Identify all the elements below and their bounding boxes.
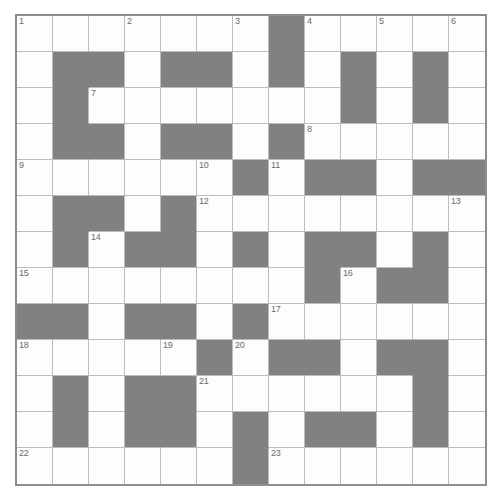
crossword-open-cell[interactable] [89, 268, 125, 304]
crossword-open-cell[interactable] [269, 268, 305, 304]
crossword-open-cell[interactable] [305, 448, 341, 484]
crossword-open-cell[interactable]: 1 [17, 16, 53, 52]
crossword-open-cell[interactable] [449, 304, 485, 340]
crossword-open-cell[interactable] [377, 52, 413, 88]
crossword-open-cell[interactable]: 6 [449, 16, 485, 52]
crossword-open-cell[interactable]: 17 [269, 304, 305, 340]
crossword-open-cell[interactable]: 12 [197, 196, 233, 232]
crossword-open-cell[interactable] [53, 268, 89, 304]
crossword-grid[interactable]: 1234567891011121314151617181920212223 [15, 14, 487, 486]
crossword-open-cell[interactable] [53, 16, 89, 52]
crossword-open-cell[interactable] [197, 304, 233, 340]
crossword-open-cell[interactable]: 20 [233, 340, 269, 376]
crossword-open-cell[interactable] [305, 304, 341, 340]
crossword-open-cell[interactable] [449, 124, 485, 160]
crossword-open-cell[interactable]: 23 [269, 448, 305, 484]
crossword-open-cell[interactable] [233, 52, 269, 88]
crossword-open-cell[interactable]: 13 [449, 196, 485, 232]
crossword-open-cell[interactable] [197, 16, 233, 52]
crossword-open-cell[interactable] [413, 304, 449, 340]
crossword-open-cell[interactable] [377, 412, 413, 448]
crossword-open-cell[interactable] [341, 304, 377, 340]
crossword-open-cell[interactable] [377, 448, 413, 484]
crossword-open-cell[interactable] [89, 160, 125, 196]
crossword-open-cell[interactable] [125, 196, 161, 232]
crossword-open-cell[interactable] [449, 268, 485, 304]
crossword-open-cell[interactable] [341, 16, 377, 52]
crossword-open-cell[interactable] [53, 160, 89, 196]
crossword-open-cell[interactable]: 15 [17, 268, 53, 304]
crossword-open-cell[interactable] [161, 448, 197, 484]
crossword-open-cell[interactable] [17, 88, 53, 124]
crossword-open-cell[interactable] [89, 340, 125, 376]
crossword-open-cell[interactable] [197, 88, 233, 124]
crossword-open-cell[interactable] [449, 448, 485, 484]
crossword-open-cell[interactable] [413, 448, 449, 484]
crossword-open-cell[interactable]: 4 [305, 16, 341, 52]
crossword-open-cell[interactable] [341, 448, 377, 484]
crossword-open-cell[interactable] [89, 16, 125, 52]
crossword-open-cell[interactable]: 5 [377, 16, 413, 52]
crossword-open-cell[interactable] [413, 196, 449, 232]
crossword-open-cell[interactable] [233, 196, 269, 232]
crossword-open-cell[interactable] [17, 124, 53, 160]
crossword-open-cell[interactable] [161, 160, 197, 196]
crossword-open-cell[interactable]: 16 [341, 268, 377, 304]
crossword-open-cell[interactable] [341, 124, 377, 160]
crossword-open-cell[interactable] [377, 124, 413, 160]
crossword-open-cell[interactable]: 3 [233, 16, 269, 52]
crossword-open-cell[interactable]: 8 [305, 124, 341, 160]
crossword-open-cell[interactable] [449, 340, 485, 376]
crossword-open-cell[interactable] [377, 304, 413, 340]
crossword-open-cell[interactable] [377, 160, 413, 196]
crossword-open-cell[interactable] [341, 376, 377, 412]
crossword-open-cell[interactable] [161, 16, 197, 52]
crossword-open-cell[interactable] [17, 412, 53, 448]
crossword-open-cell[interactable] [377, 196, 413, 232]
crossword-open-cell[interactable] [305, 52, 341, 88]
crossword-open-cell[interactable] [125, 124, 161, 160]
crossword-open-cell[interactable] [89, 376, 125, 412]
crossword-open-cell[interactable] [161, 88, 197, 124]
crossword-open-cell[interactable] [449, 376, 485, 412]
crossword-open-cell[interactable] [89, 412, 125, 448]
crossword-open-cell[interactable] [269, 376, 305, 412]
crossword-open-cell[interactable] [305, 88, 341, 124]
crossword-open-cell[interactable] [449, 232, 485, 268]
crossword-open-cell[interactable] [53, 448, 89, 484]
crossword-open-cell[interactable] [197, 268, 233, 304]
crossword-open-cell[interactable] [53, 340, 89, 376]
crossword-open-cell[interactable] [413, 124, 449, 160]
crossword-open-cell[interactable] [233, 268, 269, 304]
crossword-open-cell[interactable] [413, 16, 449, 52]
crossword-open-cell[interactable] [89, 448, 125, 484]
crossword-open-cell[interactable] [269, 412, 305, 448]
crossword-open-cell[interactable] [305, 376, 341, 412]
crossword-open-cell[interactable]: 2 [125, 16, 161, 52]
crossword-open-cell[interactable] [161, 268, 197, 304]
crossword-open-cell[interactable] [125, 52, 161, 88]
crossword-open-cell[interactable] [197, 232, 233, 268]
crossword-open-cell[interactable] [341, 340, 377, 376]
crossword-open-cell[interactable] [449, 52, 485, 88]
crossword-open-cell[interactable] [125, 160, 161, 196]
crossword-open-cell[interactable] [377, 232, 413, 268]
crossword-open-cell[interactable] [17, 196, 53, 232]
crossword-open-cell[interactable] [233, 124, 269, 160]
crossword-open-cell[interactable]: 21 [197, 376, 233, 412]
crossword-open-cell[interactable] [449, 88, 485, 124]
crossword-open-cell[interactable]: 19 [161, 340, 197, 376]
crossword-open-cell[interactable] [269, 232, 305, 268]
crossword-open-cell[interactable]: 7 [89, 88, 125, 124]
crossword-open-cell[interactable] [125, 340, 161, 376]
crossword-open-cell[interactable] [377, 376, 413, 412]
crossword-open-cell[interactable]: 10 [197, 160, 233, 196]
crossword-open-cell[interactable] [197, 448, 233, 484]
crossword-open-cell[interactable] [269, 196, 305, 232]
crossword-open-cell[interactable] [17, 232, 53, 268]
crossword-open-cell[interactable] [197, 412, 233, 448]
crossword-open-cell[interactable] [341, 196, 377, 232]
crossword-open-cell[interactable]: 22 [17, 448, 53, 484]
crossword-open-cell[interactable] [233, 88, 269, 124]
crossword-open-cell[interactable] [17, 376, 53, 412]
